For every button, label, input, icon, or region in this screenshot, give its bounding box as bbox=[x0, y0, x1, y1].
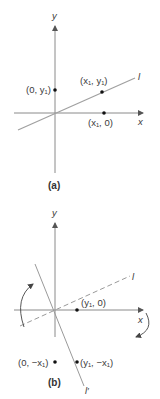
point-y1-negx1 bbox=[75, 360, 79, 364]
dashed-line-label: l bbox=[132, 271, 135, 282]
point-x1-0 bbox=[102, 111, 106, 115]
caption-b: (b) bbox=[48, 377, 61, 388]
dashed-line-l bbox=[20, 276, 130, 326]
panel-b: y x l l′ (y₁, 0) (0, −x₁) (y₁, −x₁) (b) bbox=[14, 207, 149, 396]
figure: y x l (0, y₁) (x₁, y₁) (x₁, 0) (a) y x l… bbox=[0, 0, 160, 399]
point-0-y1 bbox=[53, 88, 57, 92]
point-y1-negx1-label: (y₁, −x₁) bbox=[80, 357, 113, 368]
line-l-label: l bbox=[138, 71, 141, 82]
point-0-negx1-label: (0, −x₁) bbox=[18, 357, 48, 368]
x-axis-label: x bbox=[137, 314, 144, 325]
point-x1-y1 bbox=[100, 90, 104, 94]
point-0-y1-label: (0, y₁) bbox=[26, 84, 51, 95]
point-x1-y1-label: (x₁, y₁) bbox=[80, 75, 108, 86]
point-y1-0-label: (y₁, 0) bbox=[81, 297, 106, 308]
point-x1-0-label: (x₁, 0) bbox=[88, 117, 113, 128]
y-axis-label: y bbox=[51, 207, 58, 218]
x-axis-label: x bbox=[137, 116, 144, 127]
point-y1-0 bbox=[75, 308, 79, 312]
panel-a: y x l (0, y₁) (x₁, y₁) (x₁, 0) (a) bbox=[14, 10, 144, 191]
point-0-negx1 bbox=[53, 360, 57, 364]
y-axis-label: y bbox=[51, 10, 58, 21]
caption-a: (a) bbox=[48, 180, 60, 191]
rotated-line-label: l′ bbox=[85, 385, 90, 396]
